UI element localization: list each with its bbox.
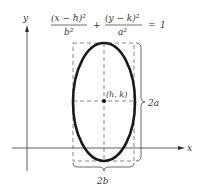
center-label: (h, k) <box>106 90 127 99</box>
y-axis-label: y <box>22 13 29 23</box>
denominator-b: b² <box>64 27 74 37</box>
minor-axis-label: 2b <box>96 176 109 186</box>
x-axis-label: x <box>187 143 192 153</box>
numerator-x: (x − h)² <box>51 13 86 23</box>
y-axis: y <box>22 13 29 171</box>
major-axis-label: 2a <box>147 98 159 108</box>
x-axis: x <box>12 143 192 153</box>
denominator-a: a² <box>118 27 127 37</box>
equals-sign: = <box>148 20 156 30</box>
numerator-y: (y − k)² <box>105 13 140 23</box>
ellipse-diagram: (x − h)² b² + (y − k)² a² = 1 y x (h, k)… <box>0 0 198 193</box>
equation-rhs: 1 <box>160 20 166 30</box>
center-point <box>102 99 106 103</box>
plus-sign: + <box>93 20 101 30</box>
ellipse-equation: (x − h)² b² + (y − k)² a² = 1 <box>51 13 166 37</box>
major-axis-brace <box>136 43 145 161</box>
minor-axis-brace <box>73 163 134 171</box>
